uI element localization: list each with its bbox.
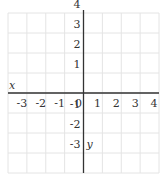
y-tick-label: 4: [74, 0, 81, 11]
x-tick-label: 2: [113, 97, 120, 110]
coordinate-plane: -3-2-101234 4321-1-2-3 x y: [0, 0, 163, 177]
x-tick-labels: -3-2-101234: [17, 97, 158, 110]
y-tick-labels: 4321-1-2-3: [70, 0, 81, 151]
y-tick-label: -1: [70, 98, 81, 111]
x-tick-label: -1: [54, 97, 65, 110]
y-tick-label: -2: [70, 118, 81, 131]
y-axis-label: y: [86, 138, 94, 151]
x-tick-label: 4: [151, 97, 158, 110]
y-tick-label: 1: [74, 58, 81, 71]
x-tick-label: -3: [17, 97, 28, 110]
y-tick-label: 2: [74, 38, 81, 51]
x-tick-label: 1: [94, 97, 101, 110]
y-tick-label: 3: [74, 18, 81, 31]
x-tick-label: -2: [35, 97, 46, 110]
y-tick-label: -3: [70, 138, 81, 151]
x-axis-label: x: [9, 79, 16, 92]
x-tick-label: 3: [132, 97, 139, 110]
